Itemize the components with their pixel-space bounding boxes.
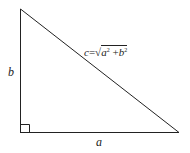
label-a: a — [96, 136, 102, 148]
right-triangle-diagram: b a c=√a2 +b2 — [0, 0, 190, 153]
hypotenuse-line — [21, 9, 180, 133]
formula-plus: + — [110, 46, 119, 58]
formula-b-exp: 2 — [124, 47, 127, 53]
hypotenuse-formula: c=√a2 +b2 — [84, 47, 127, 58]
right-angle-marker — [21, 125, 30, 133]
label-b: b — [8, 66, 14, 78]
triangle-graphic — [0, 0, 190, 153]
formula-radicand: a2 +b2 — [101, 45, 127, 58]
